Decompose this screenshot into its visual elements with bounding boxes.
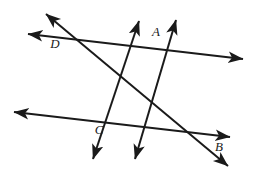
lines-group xyxy=(14,14,243,166)
lower-parallel-line xyxy=(14,112,230,137)
geometry-canvas: A B C D xyxy=(0,0,256,173)
transversal-a-right-branch xyxy=(135,20,176,159)
upper-parallel-line xyxy=(28,34,243,59)
point-label-c: C xyxy=(95,122,104,137)
point-label-b: B xyxy=(215,139,223,154)
transversal-d-to-b xyxy=(46,14,228,166)
point-label-d: D xyxy=(49,36,60,51)
point-label-a: A xyxy=(151,24,160,39)
geometry-diagram: A B C D xyxy=(0,0,256,173)
